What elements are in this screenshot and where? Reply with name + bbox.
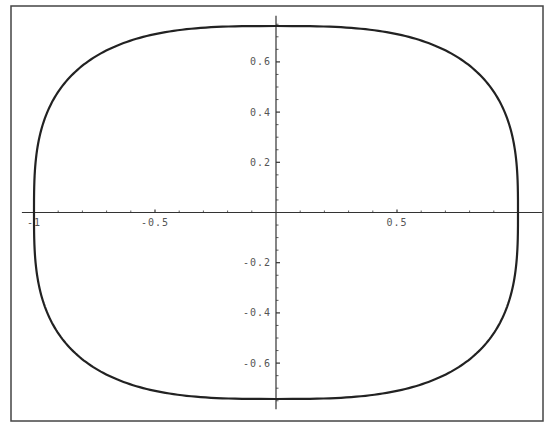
axes: -1-0.50.5 0.60.40.2-0.2-0.4-0.6	[22, 16, 542, 410]
x-tick-labels: -1-0.50.5	[27, 217, 408, 228]
y-tick-label: 0.4	[250, 107, 271, 118]
y-tick-label: -0.4	[243, 307, 271, 318]
y-tick-label: 0.2	[250, 157, 271, 168]
plot-frame	[11, 6, 543, 421]
x-tick-label: -0.5	[141, 217, 169, 228]
y-tick-label: 0.6	[250, 56, 271, 67]
x-tick-label: 0.5	[386, 217, 407, 228]
y-tick-label: -0.6	[243, 358, 271, 369]
plot-canvas: -1-0.50.5 0.60.40.2-0.2-0.4-0.6	[0, 0, 549, 439]
y-tick-label: -0.2	[243, 257, 271, 268]
